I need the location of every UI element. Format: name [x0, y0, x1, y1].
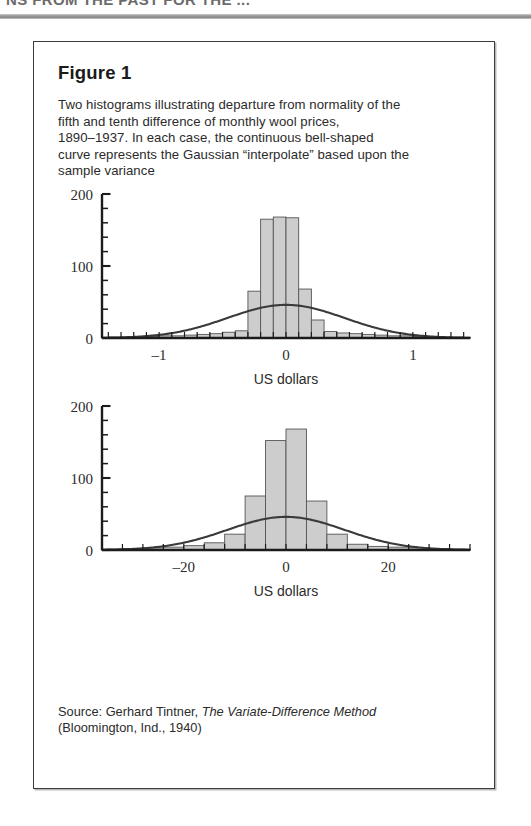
header-rule — [0, 14, 531, 19]
histogram-bar — [306, 501, 326, 550]
running-head: NS FROM THE PAST FOR THE ... — [0, 0, 531, 14]
running-head-text: NS FROM THE PAST FOR THE ... — [6, 0, 250, 8]
histogram-bar — [311, 320, 324, 338]
histogram-chart-1-svg: 0100200–101US dollars — [52, 182, 476, 387]
histogram-chart-2: 0100200–20020US dollars — [52, 394, 476, 599]
histogram-bar — [261, 219, 274, 338]
x-axis-tick-label: 20 — [381, 559, 396, 575]
caption-line: Two histograms illustrating departure fr… — [58, 97, 468, 114]
source-line-1: Source: Gerhard Tintner, The Variate-Dif… — [58, 704, 478, 720]
histogram-bars — [108, 217, 463, 338]
histogram-bar — [273, 217, 286, 338]
histogram-bar — [286, 429, 306, 550]
y-axis-tick-label: 200 — [71, 187, 94, 203]
source-prefix: Source: Gerhard Tintner, — [58, 704, 202, 719]
x-axis-tick-label: 1 — [409, 347, 417, 363]
caption-line: fifth and tenth difference of monthly wo… — [58, 114, 468, 131]
x-axis-title: US dollars — [254, 371, 319, 387]
figure-caption: Two histograms illustrating departure fr… — [58, 97, 468, 180]
y-axis-tick-label: 0 — [86, 331, 94, 347]
histogram-bar — [299, 289, 312, 338]
histogram-bar — [225, 534, 245, 550]
histogram-bar — [266, 441, 286, 550]
figure-source: Source: Gerhard Tintner, The Variate-Dif… — [58, 704, 478, 735]
y-axis-tick-label: 200 — [71, 399, 94, 415]
source-line-2: (Bloomington, Ind., 1940) — [58, 720, 478, 736]
figure-title: Figure 1 — [58, 62, 132, 84]
histogram-chart-2-svg: 0100200–20020US dollars — [52, 394, 476, 599]
x-axis-tick-label: 0 — [282, 347, 290, 363]
x-axis-title: US dollars — [254, 583, 319, 599]
histogram-bars — [102, 429, 470, 550]
histogram-bar — [248, 291, 261, 338]
x-axis-tick-label: 0 — [282, 559, 290, 575]
caption-line: sample variance — [58, 163, 468, 180]
histogram-bar — [286, 218, 299, 338]
caption-line: 1890–1937. In each case, the continuous … — [58, 130, 468, 147]
source-book-title: The Variate-Difference Method — [202, 704, 377, 719]
figure-box: Figure 1 Two histograms illustrating dep… — [33, 41, 495, 789]
y-axis-tick-label: 100 — [71, 471, 94, 487]
y-axis-tick-label: 0 — [86, 543, 94, 559]
x-axis-tick-label: –1 — [151, 347, 167, 363]
caption-line: curve represents the Gaussian “interpola… — [58, 147, 468, 164]
histogram-chart-1: 0100200–101US dollars — [52, 182, 476, 387]
x-axis-tick-label: –20 — [172, 559, 196, 575]
y-axis-tick-label: 100 — [71, 259, 94, 275]
histogram-bar — [327, 534, 347, 550]
